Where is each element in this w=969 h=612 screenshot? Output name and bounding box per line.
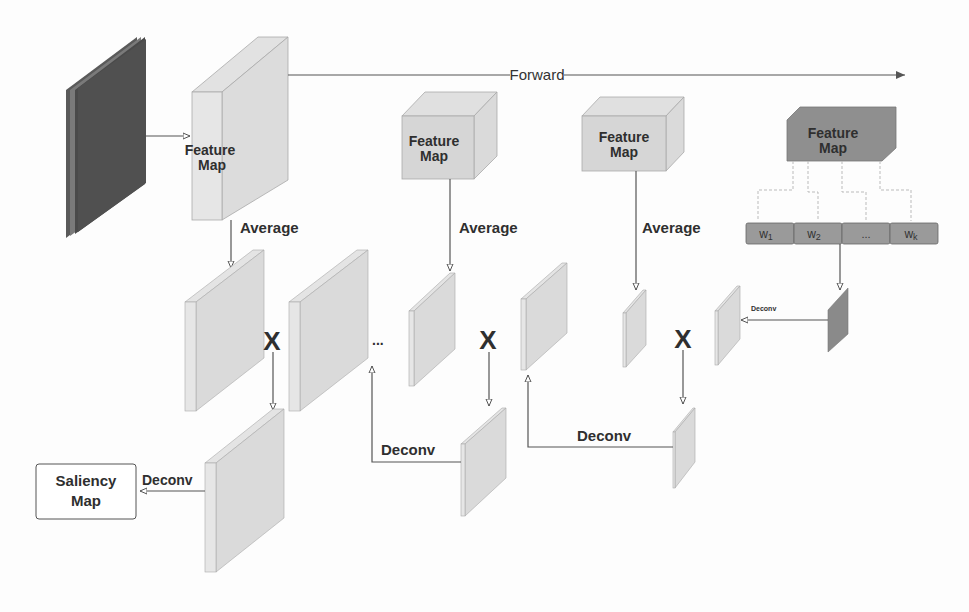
average-label-2: Average [459, 219, 518, 236]
feature-map-2-label-line2: Map [420, 148, 448, 164]
deconv-label-2: Deconv [577, 427, 632, 444]
feature-map-1-label-line2: Map [198, 157, 226, 173]
upsampled-map-2 [715, 286, 740, 365]
feature-map-1-label-line1: Feature [185, 142, 236, 158]
averaged-map-4 [623, 290, 646, 367]
multiply-symbol-3: X [674, 324, 692, 354]
average-label-1: Average [240, 219, 299, 236]
deconv-label-1: Deconv [381, 441, 436, 458]
weight-ellipsis: ... [861, 228, 870, 240]
ellipsis-1: ... [372, 332, 384, 348]
feature-map-1 [192, 37, 288, 220]
saliency-label-line2: Map [71, 492, 101, 509]
feature-map-2-label-line1: Feature [409, 133, 460, 149]
averaged-map-2 [289, 250, 368, 411]
input-image-stack [66, 37, 146, 238]
weighted-map-dark [828, 288, 848, 352]
deconv-label-final: Deconv [142, 472, 193, 488]
feature-map-3-label-line1: Feature [599, 129, 650, 145]
upsampled-map-1 [521, 263, 567, 370]
feature-map-3-label-line2: Map [610, 144, 638, 160]
product-map-2 [461, 408, 506, 516]
forward-label: Forward [509, 66, 564, 83]
averaged-map-3 [409, 273, 455, 386]
feature-map-4-label-line2: Map [819, 140, 847, 156]
product-map-1 [205, 409, 284, 572]
multiply-symbol-1: X [263, 326, 281, 356]
saliency-label-line1: Saliency [56, 472, 118, 489]
deconv-label-small: Deconv [751, 305, 776, 312]
averaged-map-1 [185, 250, 264, 411]
average-label-3: Average [642, 219, 701, 236]
weight-connections [758, 161, 911, 221]
feature-map-4-label-line1: Feature [808, 125, 859, 141]
diagram-canvas: Feature Map Forward Feature Map Feature … [0, 0, 969, 612]
product-map-3 [673, 408, 695, 488]
diagram-svg: Feature Map Forward Feature Map Feature … [0, 0, 969, 612]
multiply-symbol-2: X [479, 325, 497, 355]
